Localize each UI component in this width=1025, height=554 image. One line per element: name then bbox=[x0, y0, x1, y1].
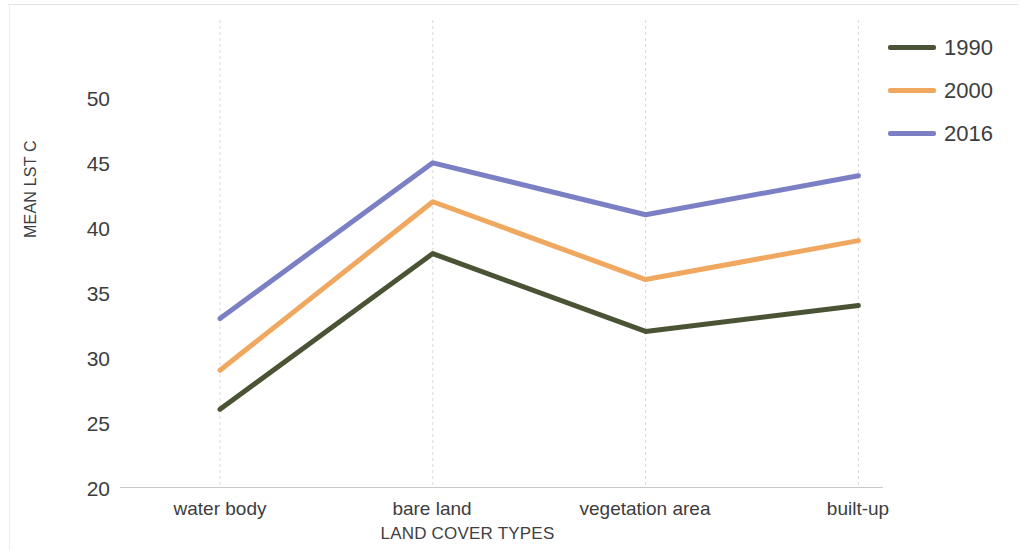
x-axis-tick-vegetation-area: vegetation area bbox=[555, 498, 735, 520]
x-axis-title-wrap: LAND COVER TYPES bbox=[0, 524, 1025, 544]
legend-item-2000[interactable]: 2000 bbox=[888, 69, 1018, 112]
y-axis-tick-25: 25 bbox=[58, 413, 110, 434]
legend-label-1990: 1990 bbox=[944, 37, 993, 59]
category-gridlines bbox=[220, 20, 858, 487]
y-axis-tick-30: 30 bbox=[58, 348, 110, 369]
y-axis-tick-35: 35 bbox=[58, 283, 110, 304]
legend-label-2000: 2000 bbox=[944, 80, 993, 102]
plot-area bbox=[120, 20, 872, 488]
series-line-1990 bbox=[220, 254, 858, 410]
series-lines bbox=[220, 163, 858, 409]
x-axis-line bbox=[120, 487, 883, 488]
y-axis-tick-50: 50 bbox=[58, 88, 110, 109]
y-axis-tick-40: 40 bbox=[58, 218, 110, 239]
legend-color-swatch-2016 bbox=[888, 131, 936, 136]
plot-svg bbox=[120, 20, 872, 488]
x-axis-title: LAND COVER TYPES bbox=[381, 524, 555, 544]
y-axis-tick-labels: 50 45 40 35 30 25 20 bbox=[58, 0, 110, 554]
y-axis-tick-45: 45 bbox=[58, 153, 110, 174]
chart-frame-top-border bbox=[8, 4, 1018, 5]
line-chart: MEAN LST C 50 45 40 35 30 25 20 water bo… bbox=[0, 0, 1025, 554]
y-axis-title: MEAN LST C bbox=[22, 78, 40, 238]
chart-frame-left-border bbox=[9, 4, 10, 550]
series-line-2000 bbox=[220, 202, 858, 371]
legend-color-swatch-1990 bbox=[888, 45, 936, 50]
legend: 1990 2000 2016 bbox=[888, 26, 1018, 155]
x-axis-tick-water-body: water body bbox=[140, 498, 300, 520]
legend-item-1990[interactable]: 1990 bbox=[888, 26, 1018, 69]
y-axis-tick-20: 20 bbox=[58, 478, 110, 499]
legend-item-2016[interactable]: 2016 bbox=[888, 112, 1018, 155]
x-axis-tick-bare-land: bare land bbox=[352, 498, 512, 520]
legend-color-swatch-2000 bbox=[888, 88, 936, 93]
x-axis-tick-built-up: built-up bbox=[778, 498, 938, 520]
legend-label-2016: 2016 bbox=[944, 123, 993, 145]
